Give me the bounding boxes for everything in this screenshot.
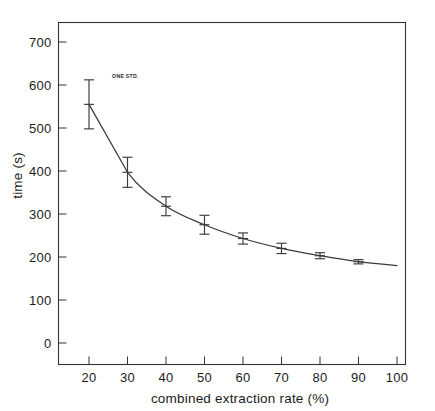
y-tick-label-400: 400 [29,164,52,179]
x-tick-label-80: 80 [312,370,327,385]
x-tick-label-20: 20 [81,370,96,385]
y-tick-label-700: 700 [29,35,52,50]
y-tick-label-600: 600 [29,78,52,93]
one-std-annotation: ONE STD. [112,73,139,79]
y-axis-title: time (s) [10,152,25,199]
x-axis-title: combined extraction rate (%) [151,391,329,406]
chart-figure: 0100200300400500600700 20304050607080901… [0,0,435,411]
chart-background [0,0,435,411]
x-tick-label-90: 90 [351,370,366,385]
y-tick-label-300: 300 [29,207,52,222]
x-tick-label-100: 100 [386,370,409,385]
x-tick-label-50: 50 [197,370,212,385]
x-axis-tick-labels: 2030405060708090100 [81,370,408,385]
x-tick-label-70: 70 [274,370,289,385]
y-tick-label-500: 500 [29,121,52,136]
line-chart-svg: 0100200300400500600700 20304050607080901… [0,0,435,411]
x-tick-label-30: 30 [120,370,135,385]
x-tick-label-60: 60 [235,370,250,385]
x-tick-label-40: 40 [158,370,173,385]
y-tick-label-0: 0 [44,336,52,351]
y-tick-label-100: 100 [29,293,52,308]
y-tick-label-200: 200 [29,250,52,265]
